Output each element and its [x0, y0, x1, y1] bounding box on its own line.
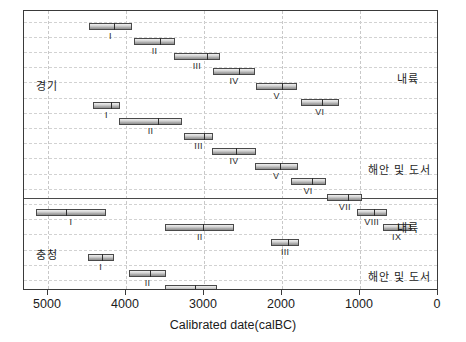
- x-axis-tick-label: 0: [434, 297, 441, 311]
- horizontal-gridline: [24, 113, 437, 114]
- x-axis-tick: [281, 290, 282, 295]
- x-axis-tick: [47, 290, 48, 295]
- bar-phase-label: III: [193, 61, 201, 71]
- horizontal-gridline: [24, 52, 437, 53]
- calibrated-date-range-chart: IIIIIIIVVVIIIIIIIIVVVIVIIVIIIIXIIIIIIIII…: [0, 0, 466, 342]
- plot-area: IIIIIIIVVVIIIIIIIIVVVIVIIVIIIIXIIIIIIIII…: [23, 10, 438, 290]
- date-range-bar: [93, 102, 120, 109]
- bar-median-mark: [207, 53, 208, 60]
- bar-phase-label: I: [105, 110, 108, 120]
- date-range-bar: [119, 118, 182, 125]
- horizontal-gridline: [24, 189, 437, 190]
- group-label-gyeonggi: 경기: [36, 77, 58, 93]
- bar-phase-label: VI: [304, 186, 313, 196]
- horizontal-gridline: [24, 22, 437, 23]
- subgroup-label-coastal-gyeonggi: 해안 및 도서: [368, 161, 431, 177]
- bar-phase-label: IV: [229, 156, 238, 166]
- date-range-bar: [134, 38, 175, 45]
- x-axis-tick-label: 4000: [111, 297, 139, 311]
- bar-median-mark: [111, 102, 112, 109]
- bar-median-mark: [114, 23, 115, 30]
- x-axis-tick: [203, 290, 204, 295]
- horizontal-gridline: [24, 204, 437, 205]
- bar-phase-label: III: [194, 141, 202, 151]
- date-range-bar: [213, 68, 254, 75]
- bar-median-mark: [102, 254, 103, 261]
- bar-phase-label: I: [109, 31, 112, 41]
- bar-phase-label: III: [281, 247, 289, 257]
- bar-phase-label: II: [148, 126, 154, 136]
- subgroup-label-inland-gyeonggi: 내륙: [397, 70, 419, 86]
- bar-phase-label: V: [273, 171, 279, 181]
- bar-phase-label: II: [145, 278, 151, 288]
- bar-median-mark: [158, 118, 159, 125]
- horizontal-gridline: [24, 143, 437, 144]
- bar-median-mark: [66, 209, 67, 216]
- date-range-bar: [357, 209, 387, 216]
- bar-phase-label: IV: [229, 76, 238, 86]
- horizontal-gridline: [24, 128, 437, 129]
- bar-median-mark: [204, 133, 205, 140]
- bar-median-mark: [374, 209, 375, 216]
- date-range-bar: [256, 83, 297, 90]
- date-range-bar: [88, 254, 114, 261]
- x-axis-tick-label: 1000: [345, 297, 373, 311]
- horizontal-gridline: [24, 250, 437, 251]
- x-axis-tick: [437, 290, 438, 295]
- bar-phase-label: I: [70, 217, 73, 227]
- bar-median-mark: [288, 239, 289, 246]
- bar-phase-label: VI: [315, 107, 324, 117]
- plot-inner: IIIIIIIVVVIIIIIIIIVVVIVIIVIIIIXIIIIIIIII…: [24, 11, 437, 289]
- date-range-bar: [291, 178, 326, 185]
- horizontal-gridline: [24, 37, 437, 38]
- bar-phase-label: VII: [339, 202, 351, 212]
- bar-phase-label: II: [152, 46, 158, 56]
- date-range-bar: [36, 209, 107, 216]
- x-axis-tick-label: 3000: [189, 297, 217, 311]
- date-range-bar: [327, 194, 362, 201]
- bar-median-mark: [322, 99, 323, 106]
- bar-median-mark: [239, 68, 240, 75]
- x-axis-title: Calibrated date(calBC): [0, 318, 466, 332]
- bar-phase-label: I: [99, 262, 102, 272]
- bar-median-mark: [160, 38, 161, 45]
- group-label-chungcheong: 충청: [36, 246, 58, 262]
- x-axis-tick-label: 5000: [33, 297, 61, 311]
- bar-median-mark: [236, 148, 237, 155]
- date-range-bar: [184, 133, 214, 140]
- horizontal-gridline: [24, 98, 437, 99]
- bar-median-mark: [150, 270, 151, 277]
- date-range-bar: [165, 224, 234, 231]
- bar-median-mark: [280, 163, 281, 170]
- date-range-bar: [255, 163, 298, 170]
- bar-median-mark: [282, 83, 283, 90]
- x-axis-tick-label: 2000: [267, 297, 295, 311]
- x-axis-tick: [359, 290, 360, 295]
- bar-median-mark: [348, 194, 349, 201]
- subgroup-label-inland-chungcheong: 내륙: [397, 219, 419, 235]
- bar-phase-label: II: [197, 232, 203, 242]
- region-divider: [24, 198, 437, 199]
- date-range-bar: [129, 270, 166, 277]
- x-axis-tick: [125, 290, 126, 295]
- horizontal-gridline: [24, 265, 437, 266]
- bar-phase-label: V: [273, 91, 279, 101]
- bar-phase-label: VIII: [364, 217, 379, 227]
- bar-median-mark: [312, 178, 313, 185]
- date-range-bar: [174, 53, 219, 60]
- subgroup-label-coastal-chungcheong: 해안 및 도서: [368, 268, 431, 284]
- date-range-bar: [301, 99, 339, 106]
- date-range-bar: [89, 23, 133, 30]
- horizontal-gridline: [24, 234, 437, 235]
- bar-median-mark: [203, 224, 204, 231]
- date-range-bar: [212, 148, 256, 155]
- date-range-bar: [271, 239, 299, 246]
- date-range-bar: [165, 285, 217, 289]
- bar-median-mark: [195, 285, 196, 289]
